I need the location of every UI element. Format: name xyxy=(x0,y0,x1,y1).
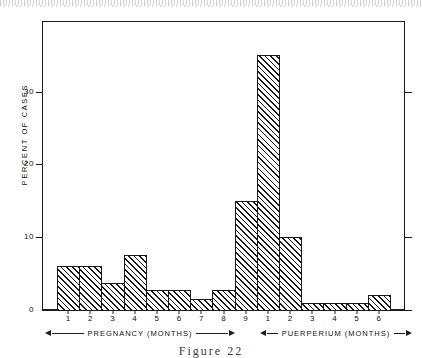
group-rule-right xyxy=(394,333,405,334)
group-label-pregnancy: PREGNANCY (MONTHS) xyxy=(45,326,235,340)
x-tick-label-9: 1 xyxy=(257,314,279,323)
bar-6-14 xyxy=(368,295,391,310)
bar-1-9 xyxy=(257,55,280,311)
bar-2-10 xyxy=(279,237,302,310)
bar-6-5 xyxy=(168,290,191,310)
arrow-right-icon xyxy=(228,330,235,337)
group-rule-left xyxy=(52,333,84,334)
x-tick-label-5: 6 xyxy=(168,314,190,323)
bar-series xyxy=(57,21,390,310)
x-tick-label-3: 4 xyxy=(124,314,146,323)
group-label-puerperium: PUERPERIUM (MONTHS) xyxy=(260,326,412,340)
y-tick-label-30-wrap: 30 xyxy=(8,92,34,102)
y-tick-mark-right-30 xyxy=(405,92,412,93)
x-tick-label-4: 5 xyxy=(146,314,168,323)
x-tick-label-10: 2 xyxy=(279,314,301,323)
bar-3-2 xyxy=(101,283,124,310)
bar-5-4 xyxy=(146,290,169,310)
bars-layer xyxy=(42,21,405,310)
bar-4-3 xyxy=(124,255,147,310)
x-tick-label-2: 3 xyxy=(101,314,123,323)
bar-1-0 xyxy=(57,266,80,310)
x-tick-label-12: 4 xyxy=(323,314,345,323)
bar-7-6 xyxy=(190,299,213,310)
y-tick-label-30: 30 xyxy=(10,87,34,96)
x-axis-tick-labels: 123456789123456 xyxy=(57,314,390,323)
bar-3-11 xyxy=(301,303,324,310)
y-tick-label-10-wrap: 10 xyxy=(8,237,34,247)
bar-2-1 xyxy=(79,266,102,310)
x-tick-label-1: 2 xyxy=(79,314,101,323)
y-tick-mark-right-10 xyxy=(405,237,412,238)
x-tick-label-14: 6 xyxy=(368,314,390,323)
arrow-right-icon xyxy=(405,330,412,337)
x-tick-label-11: 3 xyxy=(301,314,323,323)
x-tick-label-13: 5 xyxy=(346,314,368,323)
y-tick-label-0-wrap: 0 xyxy=(8,310,34,320)
bar-8-7 xyxy=(212,290,235,310)
group-rule-left xyxy=(267,333,278,334)
figure-caption: Figure 22 xyxy=(0,344,422,358)
x-tick-label-0: 1 xyxy=(57,314,79,323)
x-tick-label-6: 7 xyxy=(190,314,212,323)
group-rule-right xyxy=(196,333,228,334)
y-tick-label-20: 20 xyxy=(10,159,34,168)
bar-5-13 xyxy=(346,303,369,310)
y-tick-label-10: 10 xyxy=(10,232,34,241)
bar-9-8 xyxy=(235,201,258,311)
y-tick-label-20-wrap: 20 xyxy=(8,164,34,174)
x-tick-label-8: 9 xyxy=(235,314,257,323)
group-label-pregnancy-text: PREGNANCY (MONTHS) xyxy=(84,329,197,338)
arrow-left-icon xyxy=(45,330,52,337)
group-label-puerperium-text: PUERPERIUM (MONTHS) xyxy=(278,329,395,338)
x-tick-label-7: 8 xyxy=(212,314,234,323)
bar-4-12 xyxy=(323,303,346,310)
arrow-left-icon xyxy=(260,330,267,337)
histogram-figure: PERCENT OF CASES 30 20 10 0 123456789123… xyxy=(0,0,422,358)
y-tick-label-0: 0 xyxy=(10,305,34,314)
